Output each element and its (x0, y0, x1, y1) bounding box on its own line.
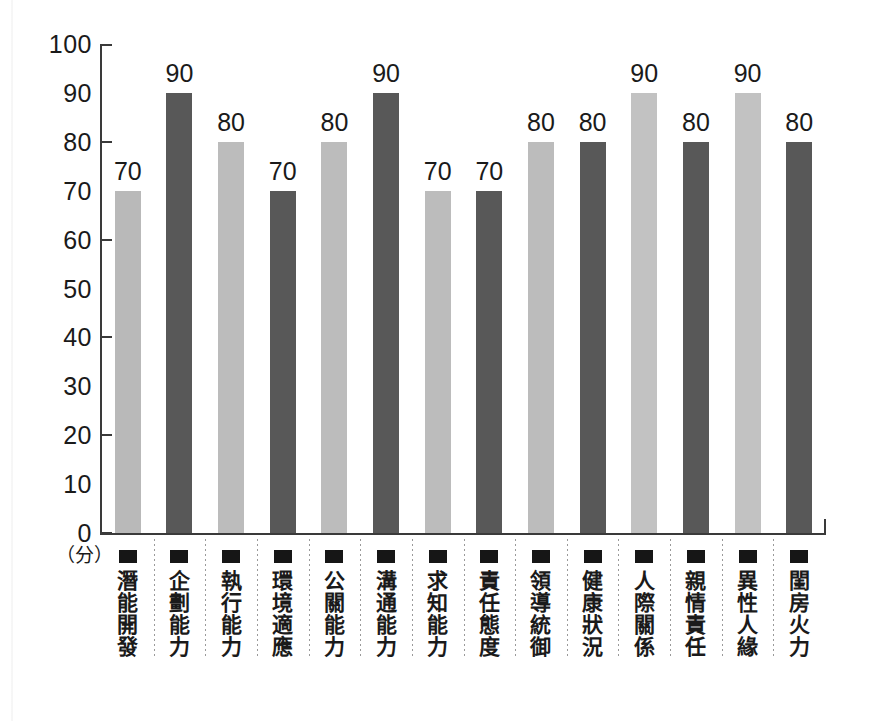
bar-value-label: 90 (718, 61, 778, 86)
category-label-10: 健康狀況 (567, 537, 619, 661)
bar-value-label: 80 (304, 110, 364, 135)
bar (321, 142, 347, 533)
category-marker-square-icon (119, 550, 137, 563)
y-axis-tick-label: 80 (63, 130, 92, 155)
category-label-7: 求知能力 (412, 537, 464, 661)
category-label-14: 閨房火力 (773, 537, 825, 661)
y-axis-tick-label: 90 (63, 81, 92, 106)
category-label-6: 溝通能力 (360, 537, 412, 661)
bar-value-label: 70 (98, 159, 158, 184)
x-axis-end-tick (824, 519, 826, 535)
y-axis-tick-mark (100, 336, 112, 338)
category-marker-square-icon (532, 550, 550, 563)
category-marker-square-icon (377, 550, 395, 563)
bar-value-label: 80 (563, 110, 623, 135)
bar (631, 93, 657, 533)
category-label-text: 執行能力 (205, 570, 257, 658)
bar-value-label: 70 (253, 159, 313, 184)
category-label-text: 責任態度 (464, 570, 516, 658)
category-label-text: 異性人緣 (722, 570, 774, 658)
category-label-text: 環境適應 (257, 570, 309, 658)
bar (115, 191, 141, 533)
category-marker-square-icon (584, 550, 602, 563)
bar-value-label: 70 (459, 159, 519, 184)
category-label-2: 企劃能力 (154, 537, 206, 661)
category-label-text: 健康狀況 (567, 570, 619, 658)
y-axis-line (100, 44, 102, 535)
category-label-13: 異性人緣 (722, 537, 774, 661)
bar-value-label: 80 (666, 110, 726, 135)
y-axis-tick-label: 40 (63, 325, 92, 350)
category-marker-square-icon (635, 550, 653, 563)
bar (218, 142, 244, 533)
bar (270, 191, 296, 533)
bar-value-label: 90 (614, 61, 674, 86)
category-label-text: 領導統御 (515, 570, 567, 658)
y-axis-tick-label: 10 (63, 472, 92, 497)
category-label-12: 親情責任 (670, 537, 722, 661)
category-label-1: 潛能開發 (102, 537, 154, 661)
category-label-11: 人際關係 (618, 537, 670, 661)
y-axis-top-tick (100, 44, 112, 46)
category-marker-square-icon (222, 550, 240, 563)
category-marker-square-icon (739, 550, 757, 563)
category-marker-square-icon (480, 550, 498, 563)
x-axis-line (100, 533, 826, 535)
category-marker-square-icon (790, 550, 808, 563)
bar (580, 142, 606, 533)
category-marker-square-icon (170, 550, 188, 563)
bar (425, 191, 451, 533)
bar (683, 142, 709, 533)
category-label-text: 溝通能力 (360, 570, 412, 658)
bar-value-label: 90 (356, 61, 416, 86)
y-axis-tick-label: 20 (63, 423, 92, 448)
category-label-text: 公關能力 (309, 570, 361, 658)
category-label-4: 環境適應 (257, 537, 309, 661)
bar (476, 191, 502, 533)
bar-value-label: 80 (769, 110, 829, 135)
bar (528, 142, 554, 533)
bar-chart: 0102030405060708090100 （分） 7090807080907… (0, 0, 871, 721)
y-axis-tick-label: 60 (63, 228, 92, 253)
bar (166, 93, 192, 533)
y-axis-tick-label: 0 (78, 521, 92, 546)
category-label-8: 責任態度 (464, 537, 516, 661)
y-axis-tick-mark (100, 141, 112, 143)
y-axis-tick-label: 70 (63, 179, 92, 204)
y-axis-tick-mark (100, 532, 112, 534)
bar (373, 93, 399, 533)
category-label-3: 執行能力 (205, 537, 257, 661)
bar-value-label: 90 (149, 61, 209, 86)
category-label-9: 領導統御 (515, 537, 567, 661)
category-marker-square-icon (429, 550, 447, 563)
category-label-text: 閨房火力 (773, 570, 825, 658)
category-label-5: 公關能力 (309, 537, 361, 661)
category-marker-square-icon (687, 550, 705, 563)
category-marker-square-icon (325, 550, 343, 563)
y-axis-tick-label: 100 (49, 32, 92, 57)
y-axis-tick-label: 50 (63, 277, 92, 302)
y-axis-tick-mark (100, 239, 112, 241)
bar (735, 93, 761, 533)
category-marker-square-icon (274, 550, 292, 563)
category-label-text: 人際關係 (618, 570, 670, 658)
bar-value-label: 80 (201, 110, 261, 135)
category-label-text: 親情責任 (670, 570, 722, 658)
y-axis-tick-label: 30 (63, 374, 92, 399)
category-label-text: 潛能開發 (102, 570, 154, 658)
y-axis-tick-mark (100, 434, 112, 436)
category-label-text: 企劃能力 (154, 570, 206, 658)
bar (786, 142, 812, 533)
category-label-text: 求知能力 (412, 570, 464, 658)
